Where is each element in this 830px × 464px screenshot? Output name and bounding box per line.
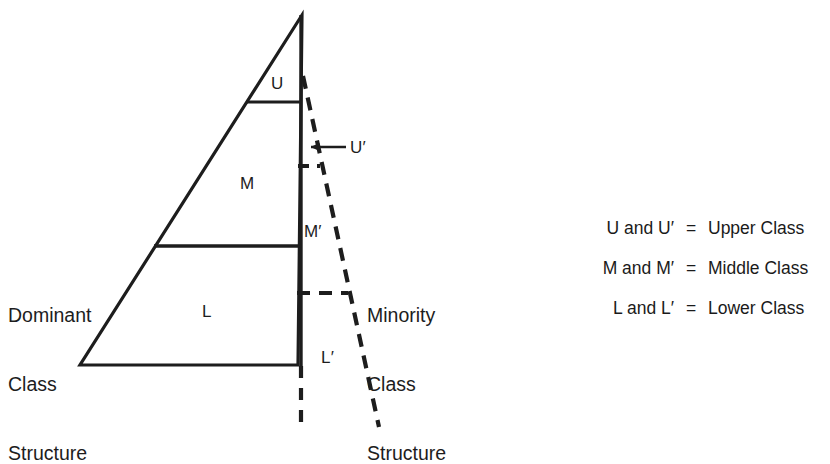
legend-row-lower: L and L′ = Lower Class xyxy=(570,298,804,319)
minority-caption-line-2: Class xyxy=(367,373,446,396)
legend-equals-lower: = xyxy=(674,298,708,319)
legend-row-upper: U and U′ = Upper Class xyxy=(570,218,804,239)
legend-symbols-lower: L and L′ xyxy=(570,298,674,319)
legend-symbols-middle: M and M′ xyxy=(570,258,674,279)
minority-structure-caption: Minority Class Structure xyxy=(367,258,446,464)
dominant-structure-caption: Dominant Class Structure xyxy=(8,258,91,464)
legend-symbols-upper: U and U′ xyxy=(570,218,674,239)
legend-equals-middle: = xyxy=(674,258,708,279)
legend-name-upper: Upper Class xyxy=(708,218,804,239)
dominant-caption-line-3: Structure xyxy=(8,442,91,464)
legend-name-middle: Middle Class xyxy=(708,258,808,279)
legend-name-lower: Lower Class xyxy=(708,298,804,319)
segment-label-u-prime: U′ xyxy=(350,138,366,158)
dominant-caption-line-2: Class xyxy=(8,373,91,396)
minority-caption-line-1: Minority xyxy=(367,304,446,327)
dominant-caption-line-1: Dominant xyxy=(8,304,91,327)
segment-label-m-prime: M′ xyxy=(304,222,322,242)
dominant-triangle-outline xyxy=(80,15,302,365)
segment-label-m: M xyxy=(240,174,254,194)
segment-label-u: U xyxy=(271,74,283,94)
segment-label-l: L xyxy=(202,302,212,322)
legend-equals-upper: = xyxy=(674,218,708,239)
legend-row-middle: M and M′ = Middle Class xyxy=(570,258,808,279)
segment-label-l-prime: L′ xyxy=(321,348,334,368)
minority-caption-line-3: Structure xyxy=(367,442,446,464)
